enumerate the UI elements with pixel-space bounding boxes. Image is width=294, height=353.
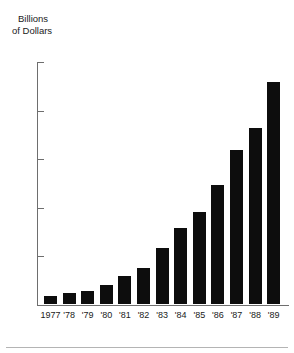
- y-axis-title-line2: of Dollars: [12, 25, 52, 37]
- plot-area: 0501001502002501977'78'79'80'81'82'83'84…: [37, 62, 289, 305]
- bar: [44, 296, 57, 304]
- bar: [267, 82, 280, 304]
- cropped-title-sliver: [0, 0, 294, 7]
- y-axis-tick: [38, 208, 44, 209]
- footer-divider: [6, 347, 288, 348]
- bar-chart-figure: Billions of Dollars 0501001502002501977'…: [0, 0, 294, 353]
- bar: [63, 293, 76, 304]
- bar: [81, 291, 94, 304]
- x-axis-tick-label: '89: [260, 311, 288, 320]
- y-axis-title: Billions of Dollars: [18, 13, 52, 37]
- bar: [230, 150, 243, 304]
- bar: [193, 212, 206, 304]
- y-axis-tick: [38, 305, 44, 306]
- y-axis-tick: [38, 111, 44, 112]
- bar: [211, 185, 224, 304]
- bar: [156, 248, 169, 304]
- x-axis-line: [37, 305, 289, 306]
- bar: [137, 268, 150, 304]
- y-axis-tick: [38, 62, 44, 63]
- y-axis-tick: [38, 159, 44, 160]
- bar: [174, 228, 187, 304]
- bar: [100, 285, 113, 304]
- bar: [118, 276, 131, 304]
- y-axis-tick: [38, 256, 44, 257]
- y-axis-line: [37, 62, 38, 306]
- bar: [249, 128, 262, 304]
- y-axis-title-line1: Billions: [18, 13, 48, 24]
